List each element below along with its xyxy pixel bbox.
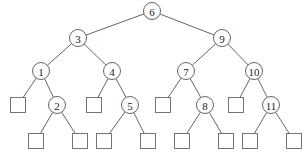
tree-node-8: 8 xyxy=(197,97,214,114)
edge-n10-n11 xyxy=(258,79,267,98)
null-leaf-square xyxy=(243,134,258,149)
edge-n8-l9 xyxy=(187,112,201,133)
edge-n4-l2 xyxy=(98,79,108,98)
edge-n7-l3 xyxy=(168,78,181,97)
tree-node-11: 11 xyxy=(263,97,280,114)
edge-n8-l10 xyxy=(209,112,221,133)
null-leaf-square xyxy=(156,98,171,113)
node-label: 4 xyxy=(109,66,115,78)
null-leaf-square xyxy=(287,134,302,149)
edge-n5-l8 xyxy=(134,113,144,134)
tree-node-5: 5 xyxy=(122,97,139,114)
edge-n1-n2 xyxy=(45,79,54,98)
null-leaf-square xyxy=(11,98,26,113)
edge-n5-l7 xyxy=(109,112,125,134)
edge-n3-n1 xyxy=(47,44,71,66)
edge-n11-l12 xyxy=(276,112,290,133)
node-label: 3 xyxy=(75,33,81,45)
edge-n7-n8 xyxy=(190,78,201,97)
tree-node-1: 1 xyxy=(33,63,50,80)
null-leaf-square xyxy=(73,134,88,149)
null-leaf-square xyxy=(229,98,244,113)
edge-n2-l5 xyxy=(40,112,52,133)
null-leaf-square xyxy=(175,134,190,149)
node-label: 7 xyxy=(183,66,189,78)
node-label: 2 xyxy=(54,100,60,112)
edge-n6-n9 xyxy=(160,14,214,35)
edge-n11-l11 xyxy=(254,112,266,133)
node-label: 11 xyxy=(266,100,277,112)
edge-n2-l6 xyxy=(62,112,76,133)
tree-node-7: 7 xyxy=(178,63,195,80)
null-leaf-square xyxy=(87,98,102,113)
node-label: 8 xyxy=(202,100,208,112)
node-label: 10 xyxy=(249,66,261,78)
null-leaf-square xyxy=(97,134,112,149)
null-leaf-square xyxy=(219,134,234,149)
null-leaf-square xyxy=(141,134,156,149)
null-leaf-square xyxy=(29,134,44,149)
tree-node-3: 3 xyxy=(70,30,87,47)
edge-n1-l1 xyxy=(23,78,36,97)
edge-n3-n4 xyxy=(84,44,106,65)
node-label: 5 xyxy=(127,100,133,112)
edge-n10-l4 xyxy=(240,79,250,98)
edge-n6-n3 xyxy=(86,14,144,35)
edge-n4-n5 xyxy=(116,79,126,98)
tree-node-6: 6 xyxy=(144,3,161,20)
node-label: 6 xyxy=(149,6,155,18)
tree-node-2: 2 xyxy=(49,97,66,114)
edge-n9-n7 xyxy=(192,44,215,66)
node-label: 1 xyxy=(38,66,44,78)
tree-node-9: 9 xyxy=(214,30,231,47)
edge-n9-n10 xyxy=(228,44,248,65)
binary-search-tree-diagram: 6391471025811 xyxy=(0,0,305,156)
tree-node-4: 4 xyxy=(104,63,121,80)
node-label: 9 xyxy=(219,33,225,45)
tree-internal-nodes: 6391471025811 xyxy=(33,3,280,114)
tree-node-10: 10 xyxy=(246,63,263,80)
